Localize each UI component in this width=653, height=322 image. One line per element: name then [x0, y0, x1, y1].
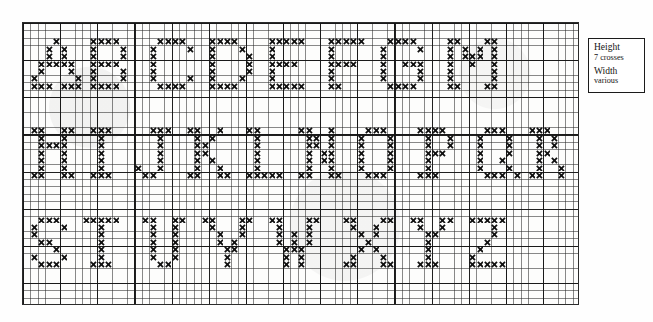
- stitch-cross: [358, 246, 365, 253]
- stitch-cross: [68, 172, 75, 179]
- stitch-cross: [350, 61, 357, 68]
- stitch-cross: [447, 75, 454, 82]
- stitch-cross: [417, 261, 424, 268]
- stitch-cross: [231, 83, 238, 90]
- stitch-cross: [328, 75, 335, 82]
- stitch-cross: [209, 61, 216, 68]
- stitch-cross: [395, 38, 402, 45]
- stitch-cross: [432, 127, 439, 134]
- stitch-cross: [224, 261, 231, 268]
- stitch-cross: [209, 135, 216, 142]
- stitch-cross: [477, 53, 484, 60]
- stitch-cross: [61, 157, 68, 164]
- stitch-cross: [53, 142, 60, 149]
- stitch-cross: [202, 142, 209, 149]
- stitch-cross: [380, 46, 387, 53]
- stitch-cross: [98, 165, 105, 172]
- stitch-cross: [373, 127, 380, 134]
- stitch-cross: [447, 135, 454, 142]
- stitch-cross: [506, 135, 513, 142]
- stitch-cross: [239, 75, 246, 82]
- stitch-cross: [194, 165, 201, 172]
- stitch-cross: [239, 46, 246, 53]
- stitch-cross: [179, 217, 186, 224]
- stitch-cross: [410, 61, 417, 68]
- legend-width-label: Width: [594, 66, 640, 77]
- stitch-cross: [157, 127, 164, 134]
- stitch-cross: [53, 38, 60, 45]
- legend-height-label: Height: [594, 42, 640, 53]
- stitch-cross: [410, 217, 417, 224]
- stitch-cross: [328, 61, 335, 68]
- stitch-cross: [157, 38, 164, 45]
- stitch-cross: [246, 127, 253, 134]
- stitch-cross: [536, 172, 543, 179]
- stitch-cross: [120, 53, 127, 60]
- stitch-cross: [98, 38, 105, 45]
- stitch-cross: [217, 165, 224, 172]
- stitch-cross: [38, 61, 45, 68]
- stitch-cross: [224, 254, 231, 261]
- stitch-cross: [254, 172, 261, 179]
- stitch-cross: [38, 217, 45, 224]
- stitch-cross: [506, 142, 513, 149]
- stitch-cross: [217, 231, 224, 238]
- stitch-cross: [157, 165, 164, 172]
- stitch-cross: [343, 217, 350, 224]
- stitch-cross: [150, 239, 157, 246]
- stitch-cross: [387, 217, 394, 224]
- stitch-cross: [150, 172, 157, 179]
- stitch-cross: [246, 172, 253, 179]
- stitch-cross: [246, 217, 253, 224]
- stitch-cross: [194, 172, 201, 179]
- stitch-cross: [417, 217, 424, 224]
- stitch-cross: [254, 127, 261, 134]
- stitch-layer: [23, 23, 578, 304]
- stitch-cross: [172, 239, 179, 246]
- stitch-cross: [358, 38, 365, 45]
- stitch-cross: [46, 53, 53, 60]
- stitch-cross: [187, 46, 194, 53]
- stitch-cross: [499, 127, 506, 134]
- stitch-cross: [536, 142, 543, 149]
- stitch-cross: [90, 46, 97, 53]
- stitch-cross: [246, 53, 253, 60]
- stitch-cross: [425, 157, 432, 164]
- stitch-cross: [306, 142, 313, 149]
- stitch-cross: [98, 61, 105, 68]
- stitch-cross: [491, 61, 498, 68]
- stitch-cross: [417, 68, 424, 75]
- stitch-cross: [239, 217, 246, 224]
- stitch-cross: [425, 246, 432, 253]
- stitch-cross: [306, 224, 313, 231]
- stitch-cross: [469, 61, 476, 68]
- stitch-cross: [194, 135, 201, 142]
- stitch-cross: [209, 224, 216, 231]
- stitch-cross: [536, 127, 543, 134]
- stitch-cross: [432, 172, 439, 179]
- stitch-cross: [469, 254, 476, 261]
- stitch-cross: [46, 83, 53, 90]
- stitch-cross: [484, 261, 491, 268]
- stitch-cross: [328, 150, 335, 157]
- stitch-cross: [506, 150, 513, 157]
- stitch-cross: [491, 224, 498, 231]
- stitch-cross: [254, 165, 261, 172]
- stitch-cross: [335, 83, 342, 90]
- stitch-cross: [209, 83, 216, 90]
- stitch-cross: [105, 261, 112, 268]
- stitch-cross: [113, 38, 120, 45]
- stitch-cross: [194, 142, 201, 149]
- stitch-cross: [439, 150, 446, 157]
- stitch-cross: [395, 83, 402, 90]
- stitch-cross: [373, 172, 380, 179]
- stitch-cross: [269, 61, 276, 68]
- stitch-cross: [209, 75, 216, 82]
- stitch-cross: [224, 172, 231, 179]
- stitch-cross: [269, 83, 276, 90]
- stitch-cross: [484, 83, 491, 90]
- stitch-cross: [365, 239, 372, 246]
- stitch-cross: [425, 150, 432, 157]
- stitch-cross: [98, 83, 105, 90]
- stitch-cross: [447, 83, 454, 90]
